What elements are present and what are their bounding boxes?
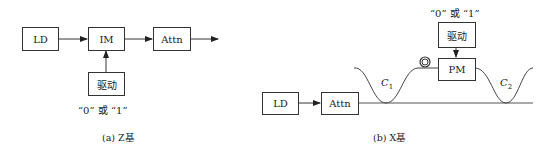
attenuator-box-b: Attn [321,92,359,115]
coupler-label-c1: C1 [381,77,393,91]
driver-box-a: 驱动 [88,72,125,96]
input-bit-label-b: “0” 或 “1” [430,5,480,20]
caption-a: (a) Z基 [102,130,135,144]
phase-modulator-box: PM [438,58,476,81]
caption-b: (b) X基 [373,130,406,144]
laser-diode-box-a: LD [22,27,59,51]
attenuator-box-a: Attn [153,27,191,51]
coupler-label-c2: C2 [500,77,512,91]
input-bit-label-a: “0” 或 “1” [78,102,128,117]
laser-diode-box-b: LD [262,92,299,115]
driver-box-b: 驱动 [438,22,476,48]
intensity-modulator-box: IM [88,27,125,51]
